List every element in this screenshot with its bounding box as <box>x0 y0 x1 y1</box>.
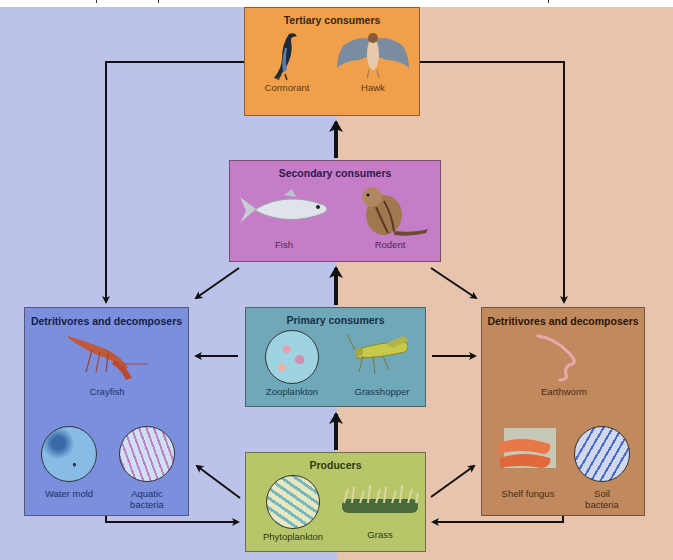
organism-label: Earthworm <box>522 386 606 397</box>
crayfish-icon <box>62 330 152 384</box>
organism-label: Zooplankton <box>256 386 328 397</box>
primary-consumers-box: Primary consumers Zooplankton Grasshoppe… <box>245 307 426 407</box>
organism-shelf-fungus: Shelf fungus <box>488 426 568 499</box>
organism-label: Cormorant <box>255 82 319 93</box>
organism-soil-bacteria: Soil bacteria <box>566 426 638 510</box>
soil-bacteria-icon <box>574 426 630 482</box>
cormorant-icon <box>267 30 307 82</box>
top-cropped-caption-strip <box>0 0 673 7</box>
organism-aquatic-bacteria: Aquatic bacteria <box>111 426 183 510</box>
terrestrial-detritivores-box: Detritivores and decomposers Earthworm S… <box>481 307 645 516</box>
shelf-fungus-icon <box>496 426 560 482</box>
tertiary-consumers-box: Tertiary consumers Cormorant Hawk <box>244 7 420 116</box>
organism-label: Phytoplankton <box>256 531 330 542</box>
organism-label: Rodent <box>346 239 434 250</box>
secondary-consumers-box: Secondary consumers Fish Rodent <box>229 160 441 262</box>
cropped-text-fragment <box>548 0 549 3</box>
organism-fish: Fish <box>234 185 334 250</box>
cropped-text-fragment <box>96 0 97 3</box>
organism-label: Grasshopper <box>342 386 422 397</box>
box-title: Detritivores and decomposers <box>25 315 188 327</box>
organism-grasshopper: Grasshopper <box>342 330 422 397</box>
organism-earthworm: Earthworm <box>522 332 606 397</box>
organism-label: Aquatic <box>111 488 183 499</box>
organism-label: Grass <box>338 529 422 540</box>
organism-hawk: Hawk <box>333 30 413 93</box>
organism-crayfish: Crayfish <box>57 330 157 397</box>
fish-icon <box>236 185 332 235</box>
organism-label: Crayfish <box>57 386 157 397</box>
organism-label: Shelf fungus <box>488 488 568 499</box>
cropped-text-fragment <box>158 0 159 3</box>
organism-water-mold: Water mold <box>33 426 105 499</box>
aquatic-bacteria-icon <box>119 426 175 482</box>
organism-label: Fish <box>234 239 334 250</box>
producers-box: Producers Phytoplankton Grass <box>245 452 426 552</box>
phytoplankton-icon <box>266 475 320 529</box>
organism-cormorant: Cormorant <box>255 30 319 93</box>
water-mold-icon <box>41 426 97 482</box>
box-title: Producers <box>246 459 425 471</box>
hawk-icon <box>335 30 411 82</box>
box-title: Tertiary consumers <box>245 14 419 26</box>
organism-label: Hawk <box>333 82 413 93</box>
organism-phytoplankton: Phytoplankton <box>256 475 330 542</box>
organism-rodent: Rodent <box>346 185 434 250</box>
organism-zooplankton: Zooplankton <box>256 330 328 397</box>
rodent-icon <box>348 185 432 239</box>
grasshopper-icon <box>345 330 419 386</box>
organism-label: Soil <box>566 488 638 499</box>
earthworm-icon <box>534 332 594 384</box>
aquatic-detritivores-box: Detritivores and decomposers Crayfish Wa… <box>24 307 189 516</box>
box-title: Primary consumers <box>246 314 425 326</box>
organism-grass: Grass <box>338 475 422 540</box>
zooplankton-icon <box>265 330 319 384</box>
organism-label: bacteria <box>111 499 183 510</box>
box-title: Detritivores and decomposers <box>482 315 644 327</box>
box-title: Secondary consumers <box>230 167 440 179</box>
grass-icon <box>340 475 420 529</box>
organism-label: bacteria <box>566 499 638 510</box>
organism-label: Water mold <box>33 488 105 499</box>
